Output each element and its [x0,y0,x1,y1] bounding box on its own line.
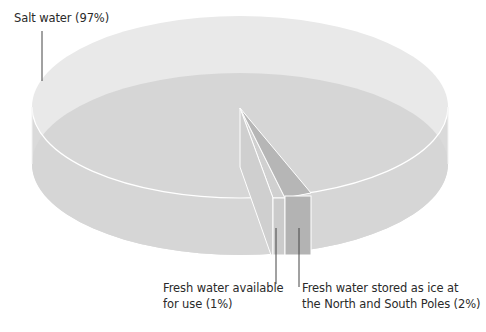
fresh-water-label-line2: for use (1%) [163,296,284,312]
salt-water-label: Salt water (97%) [14,10,109,26]
ice-water-label-line1: Fresh water stored as ice at [302,280,480,296]
fresh-available-slice-front [273,198,285,255]
fresh-water-label: Fresh water available for use (1%) [163,280,284,312]
ice-slice-front [285,196,311,255]
ice-water-label-line2: the North and South Poles (2%) [302,296,480,312]
salt-water-label-text: Salt water (97%) [14,10,109,26]
fresh-water-label-line1: Fresh water available [163,280,284,296]
ice-water-label: Fresh water stored as ice at the North a… [302,280,480,312]
